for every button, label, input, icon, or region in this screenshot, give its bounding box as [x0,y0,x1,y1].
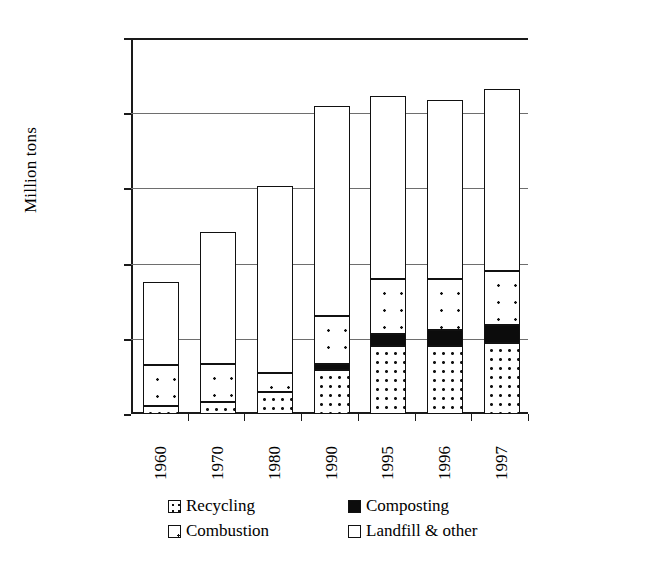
bar-segment-1997-landfill-other[interactable] [484,89,520,271]
y-tick-250 [124,38,131,40]
y-tick-150 [124,188,131,190]
bar-segment-1997-composting[interactable] [484,325,520,343]
bar-segment-1995-recycling[interactable] [370,346,406,414]
x-tick-1995 [415,414,416,421]
bar-1960[interactable] [143,282,179,415]
legend-item-composting[interactable]: Composting [348,498,528,514]
bar-segment-1980-combustion[interactable] [257,373,293,393]
bar-segment-1996-recycling[interactable] [427,346,463,414]
x-axis-label-1980: 1980 [265,420,285,480]
bar-segment-1995-combustion[interactable] [370,279,406,333]
legend-item-recycling[interactable]: Recycling [168,498,348,514]
x-tick-1996 [471,414,472,421]
bar-segment-1997-recycling[interactable] [484,343,520,414]
bar-segment-1990-landfill-other[interactable] [314,106,350,317]
legend-label: Combustion [186,523,269,539]
bar-segment-1980-landfill-other[interactable] [257,186,293,372]
x-axis-label-1995: 1995 [378,420,398,480]
bar-segment-1980-recycling[interactable] [257,392,293,414]
x-tick-1980 [301,414,302,421]
bar-segment-1970-combustion[interactable] [200,364,236,402]
x-tick-1960 [188,414,189,421]
plot-top-border [131,38,528,40]
bar-1996[interactable] [427,100,463,414]
legend-label: Composting [366,498,449,514]
bar-segment-1996-composting[interactable] [427,330,463,346]
legend-swatch-icon [168,500,181,513]
x-tick-1997 [528,414,529,421]
plot-area [131,38,528,414]
chart-legend: RecyclingCompostingCombustionLandfill & … [168,498,528,548]
bar-segment-1995-landfill-other[interactable] [370,96,406,279]
x-tick-1970 [244,414,245,421]
legend-row: CombustionLandfill & other [168,523,528,539]
legend-item-combustion[interactable]: Combustion [168,523,348,539]
bar-segment-1997-combustion[interactable] [484,271,520,325]
bar-1990[interactable] [314,106,350,414]
bar-segment-1996-combustion[interactable] [427,279,463,330]
y-tick-0 [124,414,131,416]
y-tick-200 [124,113,131,115]
legend-label: Recycling [186,498,255,514]
legend-swatch-icon [348,500,361,513]
bar-segment-1970-landfill-other[interactable] [200,232,236,364]
legend-swatch-icon [168,525,181,538]
x-axis-label-1996: 1996 [435,420,455,480]
bar-segment-1990-recycling[interactable] [314,370,350,414]
bar-1980[interactable] [257,186,293,414]
legend-label: Landfill & other [366,523,477,539]
bar-1997[interactable] [484,89,520,414]
chart-figure: Million tons 050100150200250 19601970198… [0,0,654,576]
bar-segment-1960-recycling[interactable] [143,406,179,414]
bar-segment-1990-composting[interactable] [314,364,350,370]
bar-1995[interactable] [370,96,406,414]
y-tick-50 [124,339,131,341]
x-axis-label-1960: 1960 [151,420,171,480]
y-axis-title: Million tons [21,90,41,250]
legend-item-landfill-other[interactable]: Landfill & other [348,523,528,539]
bar-segment-1996-landfill-other[interactable] [427,100,463,278]
x-axis-label-1990: 1990 [322,420,342,480]
bar-segment-1990-combustion[interactable] [314,316,350,364]
x-axis-label-1997: 1997 [492,420,512,480]
bar-segment-1995-composting[interactable] [370,334,406,347]
bar-1970[interactable] [200,232,236,414]
bar-segment-1960-landfill-other[interactable] [143,282,179,365]
x-tick-1990 [358,414,359,421]
x-axis-label-1970: 1970 [208,420,228,480]
bar-segment-1960-combustion[interactable] [143,365,179,406]
legend-swatch-icon [348,525,361,538]
bar-segment-1970-recycling[interactable] [200,402,236,414]
legend-row: RecyclingComposting [168,498,528,514]
y-tick-100 [124,264,131,266]
